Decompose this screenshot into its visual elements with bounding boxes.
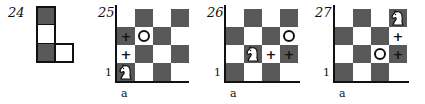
- file-axis: [115, 81, 189, 83]
- rank-label: 1: [323, 67, 330, 78]
- square-b1: [135, 63, 153, 81]
- square-d3: [280, 27, 298, 45]
- figure-24: 24: [0, 0, 100, 104]
- figure-26: 26 + + 1 a: [204, 0, 309, 104]
- knight-icon: [390, 10, 406, 26]
- square-a1: [335, 63, 353, 81]
- circle-marker: [138, 30, 150, 42]
- chessboard: + +: [226, 9, 298, 81]
- rank-axis: [333, 5, 335, 83]
- square-c1: [262, 63, 280, 81]
- square-c2: [153, 45, 171, 63]
- file-axis: [333, 81, 409, 83]
- square-c4: [153, 9, 171, 27]
- square-b1: [244, 63, 262, 81]
- file-axis: [224, 81, 300, 83]
- square-c1: [153, 63, 171, 81]
- square-b4: [353, 9, 371, 27]
- figure-number: 27: [315, 6, 332, 19]
- square-b4: [135, 9, 153, 27]
- square-c2: [371, 45, 389, 63]
- square-a2: +: [117, 45, 135, 63]
- knight-icon: [118, 64, 134, 80]
- square-d2: +: [389, 45, 407, 63]
- square-d4: [280, 9, 298, 27]
- plus-marker: +: [393, 48, 404, 61]
- rank-axis: [115, 5, 117, 83]
- l-piece-divider: [36, 24, 56, 25]
- square-d1: [280, 63, 298, 81]
- l-piece-outline-vertical: [36, 6, 56, 63]
- plus-marker: +: [121, 48, 132, 61]
- square-d4: [389, 9, 407, 27]
- l-piece-outline-foot: [54, 43, 74, 63]
- rank-label: 1: [214, 67, 221, 78]
- square-d4: [171, 9, 189, 27]
- square-b3: [244, 27, 262, 45]
- rank-axis: [224, 5, 226, 83]
- plus-marker: +: [266, 48, 277, 61]
- square-b3: [353, 27, 371, 45]
- figure-25: 25 + + 1 a: [95, 0, 200, 104]
- knight-icon: [245, 46, 261, 62]
- square-a2: [335, 45, 353, 63]
- figure-number: 25: [98, 6, 115, 19]
- square-c4: [371, 9, 389, 27]
- square-a1: [117, 63, 135, 81]
- square-b1: [353, 63, 371, 81]
- square-c2: +: [262, 45, 280, 63]
- chessboard: + +: [117, 9, 189, 81]
- figure-number: 24: [8, 6, 25, 19]
- square-d1: [171, 63, 189, 81]
- square-a3: [226, 27, 244, 45]
- plus-marker: +: [121, 30, 132, 43]
- square-d2: [171, 45, 189, 63]
- figure-number: 26: [207, 6, 224, 19]
- square-b2: [244, 45, 262, 63]
- square-a3: +: [117, 27, 135, 45]
- square-d1: [389, 63, 407, 81]
- square-a2: [226, 45, 244, 63]
- figure-27: 27 + + 1 a: [312, 0, 422, 104]
- square-a4: [117, 9, 135, 27]
- square-a4: [335, 9, 353, 27]
- square-a4: [226, 9, 244, 27]
- square-c4: [262, 9, 280, 27]
- square-c1: [371, 63, 389, 81]
- square-c3: [262, 27, 280, 45]
- square-b2: [135, 45, 153, 63]
- file-label: a: [121, 88, 128, 99]
- circle-marker: [374, 48, 386, 60]
- square-d3: [171, 27, 189, 45]
- square-d2: +: [280, 45, 298, 63]
- plus-marker: +: [393, 30, 404, 43]
- square-b4: [244, 9, 262, 27]
- square-d3: +: [389, 27, 407, 45]
- file-label: a: [230, 88, 237, 99]
- circle-marker: [283, 30, 295, 42]
- file-label: a: [339, 88, 346, 99]
- square-a1: [226, 63, 244, 81]
- plus-marker: +: [284, 48, 295, 61]
- square-a3: [335, 27, 353, 45]
- l-piece-divider: [36, 43, 74, 44]
- square-b2: [353, 45, 371, 63]
- square-c3: [153, 27, 171, 45]
- square-b3: [135, 27, 153, 45]
- square-c3: [371, 27, 389, 45]
- chessboard: + +: [335, 9, 407, 81]
- rank-label: 1: [105, 67, 112, 78]
